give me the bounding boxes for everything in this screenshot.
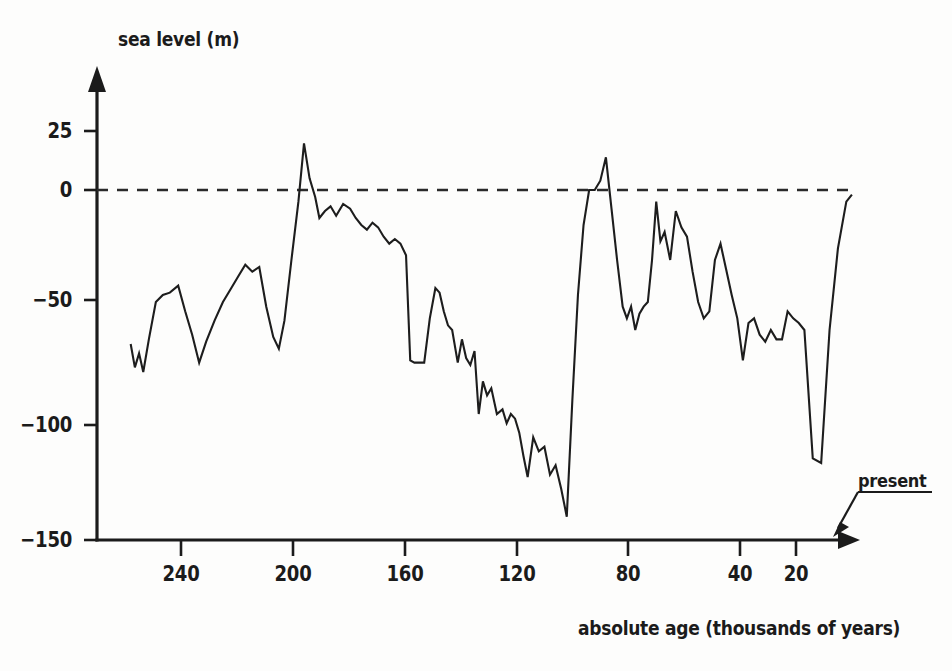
y-tick-label-25: 25 <box>19 119 72 143</box>
x-tick-label-160: 160 <box>375 562 435 586</box>
present-annotation-leader <box>833 492 932 537</box>
sea-level-curve <box>131 143 852 516</box>
y-tick-label-minus150: −150 <box>3 528 72 552</box>
x-tick-label-240: 240 <box>151 562 211 586</box>
y-axis-title: sea level (m) <box>118 28 239 50</box>
x-tick-label-120: 120 <box>487 562 547 586</box>
x-tick-label-20: 20 <box>770 562 822 586</box>
x-tick-label-40: 40 <box>714 562 766 586</box>
sea-level-figure: 25 0 −50 −100 −150 240 200 160 120 80 40… <box>0 0 952 671</box>
present-annotation-label: present <box>858 470 927 491</box>
x-tick-marks <box>181 540 796 556</box>
y-tick-marks <box>84 131 97 540</box>
x-tick-label-200: 200 <box>263 562 323 586</box>
y-axis-arrow-icon <box>88 66 106 92</box>
y-tick-label-minus50: −50 <box>12 288 72 312</box>
y-tick-label-minus100: −100 <box>3 413 72 437</box>
x-axis-title: absolute age (thousands of years) <box>578 617 900 639</box>
x-tick-label-80: 80 <box>602 562 654 586</box>
x-axis-arrow-icon <box>838 531 860 549</box>
y-tick-label-0: 0 <box>19 178 72 202</box>
